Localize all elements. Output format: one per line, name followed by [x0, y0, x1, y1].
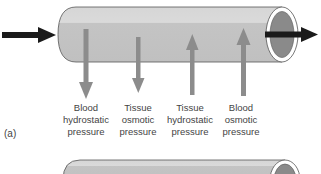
capillary-diagram	[0, 0, 321, 174]
capillary-tube-top	[58, 7, 298, 62]
panel-label: (a)	[4, 128, 16, 139]
capillary-tube-bottom	[63, 160, 300, 174]
label-tissue-osmotic-pressure: Tissue osmotic pressure	[108, 102, 168, 138]
label-line: Blood	[211, 102, 271, 114]
label-line: hydrostatic	[56, 114, 116, 126]
label-line: pressure	[211, 126, 271, 138]
label-blood-osmotic-pressure: Blood osmotic pressure	[211, 102, 271, 138]
label-blood-hydrostatic-pressure: Blood hydrostatic pressure	[56, 102, 116, 138]
label-line: Blood	[56, 102, 116, 114]
label-line: Tissue	[108, 102, 168, 114]
label-line: osmotic	[211, 114, 271, 126]
label-line: pressure	[56, 126, 116, 138]
label-line: pressure	[108, 126, 168, 138]
inflow-arrow-icon	[2, 27, 56, 43]
label-line: osmotic	[108, 114, 168, 126]
